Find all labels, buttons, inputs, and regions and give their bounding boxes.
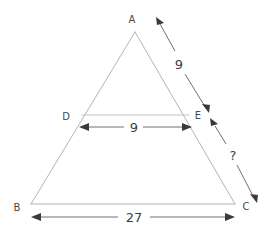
triangle-side-ab	[31, 32, 135, 204]
triangle-side-ac	[135, 32, 235, 204]
dimension-de-arrowhead-left	[79, 123, 89, 131]
dimension-ae: 9	[156, 17, 210, 113]
dimension-bc-arrowhead-left	[31, 213, 41, 221]
vertex-label-e: E	[195, 110, 201, 121]
vertex-label-b: B	[14, 202, 21, 213]
dimension-bc-arrowhead-right	[225, 213, 235, 221]
dimension-label-de: 9	[130, 120, 138, 135]
dimension-ae-line-upper	[160, 24, 175, 51]
dimension-ec-line-lower	[237, 165, 252, 194]
vertex-label-d: D	[62, 111, 70, 122]
vertex-label-c: C	[243, 201, 250, 212]
dimension-label-bc: 27	[126, 210, 143, 225]
dimension-de: 9	[79, 120, 192, 135]
vertex-label-a: A	[129, 14, 136, 25]
dimension-ae-arrowhead-bottom	[202, 104, 210, 113]
dimension-ae-line-lower	[185, 74, 204, 105]
dimension-ec-arrowhead-bottom	[250, 194, 258, 203]
dimension-bc: 27	[31, 210, 235, 225]
dimension-label-ec: ?	[230, 148, 237, 163]
dimension-ec-arrowhead-top	[210, 118, 218, 126]
dimension-ec-line-upper	[215, 126, 226, 144]
dimension-ae-arrowhead-top	[156, 17, 164, 25]
dimension-de-arrowhead-right	[182, 123, 192, 131]
geometry-diagram: A B C D E 9 ?	[0, 0, 270, 236]
triangle-figure: A B C D E 9 ?	[0, 0, 270, 236]
dimension-label-ae: 9	[175, 57, 183, 72]
dimension-ec: ?	[210, 118, 258, 203]
